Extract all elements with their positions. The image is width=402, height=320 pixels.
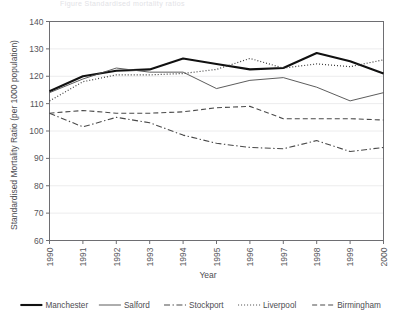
x-axis-tick-label: 1993 bbox=[145, 247, 155, 266]
y-axis-tick-label: 80 bbox=[34, 181, 44, 191]
x-axis-tick-label: 1998 bbox=[312, 247, 322, 266]
x-axis-ticks bbox=[50, 241, 384, 245]
x-axis-tick-label: 1991 bbox=[78, 247, 88, 266]
y-axis-ticks bbox=[46, 22, 50, 241]
x-axis-tick-label: 1995 bbox=[212, 247, 222, 266]
legend-label-liverpool[interactable]: Liverpool bbox=[263, 301, 296, 310]
x-axis-tick-label: 2000 bbox=[379, 247, 389, 266]
chart-legend: ManchesterSalfordStockportLiverpoolBirmi… bbox=[20, 301, 381, 310]
x-axis-tick-label: 1999 bbox=[345, 247, 355, 266]
y-axis-tick-label: 110 bbox=[30, 99, 44, 109]
x-axis-tick-labels: 1990199119921993199419951996199719981999… bbox=[45, 247, 389, 266]
legend-label-salford[interactable]: Salford bbox=[124, 301, 150, 310]
y-axis-tick-label: 90 bbox=[34, 153, 44, 163]
x-axis-tick-label: 1994 bbox=[178, 247, 188, 266]
legend-label-birmingham[interactable]: Birmingham bbox=[337, 301, 381, 310]
x-axis-tick-label: 1996 bbox=[245, 247, 255, 266]
x-axis-tick-label: 1990 bbox=[45, 247, 55, 266]
x-axis-title: Year bbox=[199, 270, 216, 280]
mortality-line-chart: 60708090100110120130140 1990199119921993… bbox=[0, 0, 402, 320]
y-axis-tick-label: 130 bbox=[29, 44, 43, 54]
legend-label-manchester[interactable]: Manchester bbox=[45, 301, 88, 310]
y-axis-tick-label: 60 bbox=[34, 236, 44, 246]
legend-label-stockport[interactable]: Stockport bbox=[189, 301, 224, 310]
y-axis-title: Standardised Mortality Ratio (per 1000 p… bbox=[9, 40, 19, 230]
y-axis-tick-label: 100 bbox=[29, 126, 43, 136]
y-axis-tick-label: 120 bbox=[29, 71, 43, 81]
chart-container: Figure Standardised mortality ratios 607… bbox=[0, 0, 402, 320]
y-axis-tick-label: 140 bbox=[29, 17, 43, 27]
y-axis-tick-label: 70 bbox=[34, 208, 44, 218]
y-axis-tick-labels: 60708090100110120130140 bbox=[29, 17, 43, 246]
x-axis-tick-label: 1992 bbox=[112, 247, 122, 266]
x-axis-tick-label: 1997 bbox=[279, 247, 289, 266]
